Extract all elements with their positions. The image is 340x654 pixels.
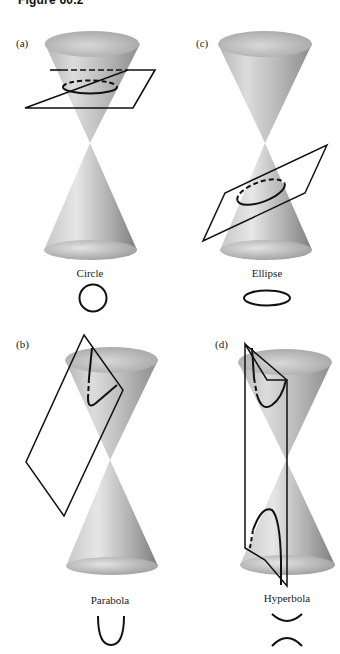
panel-c-ellipse: (c) Ellipse bbox=[196, 31, 327, 306]
upper-nappe bbox=[238, 349, 332, 460]
panel-d-label: (d) bbox=[215, 338, 228, 351]
lower-nappe bbox=[44, 143, 137, 260]
panel-b-parabola: (b) Parabola bbox=[16, 335, 158, 645]
conic-name-parabola: Parabola bbox=[91, 594, 130, 606]
parabola-shape bbox=[98, 616, 124, 645]
panel-b-label: (b) bbox=[16, 338, 29, 351]
ellipse-shape bbox=[244, 291, 290, 306]
panel-a-circle: (a) Circle bbox=[16, 31, 155, 312]
circle-shape bbox=[80, 285, 107, 312]
conic-name-hyperbola: Hyperbola bbox=[264, 592, 311, 604]
panel-a-label: (a) bbox=[16, 37, 29, 50]
conic-name-circle: Circle bbox=[77, 267, 104, 279]
panel-c-label: (c) bbox=[196, 37, 209, 50]
upper-nappe bbox=[65, 347, 158, 460]
conic-name-ellipse: Ellipse bbox=[252, 267, 283, 279]
upper-nappe bbox=[45, 31, 141, 143]
conic-sections-diagram: (a) Circle (c) bbox=[0, 0, 340, 654]
upper-nappe bbox=[218, 31, 312, 143]
hyperbola-shape-lower-branch bbox=[272, 638, 302, 646]
panel-d-hyperbola: (d) Hyperbola bbox=[215, 338, 335, 646]
lower-nappe bbox=[66, 460, 158, 575]
hyperbola-shape-upper-branch bbox=[272, 614, 302, 621]
